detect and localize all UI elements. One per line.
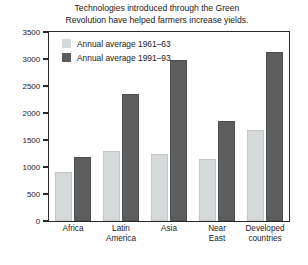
bar	[247, 130, 264, 221]
legend-item-1961-63: Annual average 1961–63	[62, 37, 212, 50]
bar	[218, 121, 235, 221]
legend-swatch-dark-icon	[62, 53, 71, 62]
bar	[170, 60, 187, 221]
x-axis-label-line: Developed	[235, 224, 295, 234]
chart-title: Technologies introduced through the Gree…	[26, 3, 288, 26]
chart-title-line-1: Technologies introduced through the Gree…	[26, 3, 288, 15]
y-axis-tick-label: 2500	[23, 82, 40, 91]
y-axis-tick-label: 2000	[23, 109, 40, 118]
y-axis-tick: 500	[27, 189, 48, 199]
y-axis: 3500300025002000150010005000	[0, 31, 48, 222]
legend-label-1961-63: Annual average 1961–63	[77, 39, 171, 49]
y-axis-tick-label: 1500	[23, 136, 40, 145]
y-axis-tick: 1000	[23, 162, 48, 172]
bar	[151, 154, 168, 221]
bar	[266, 52, 283, 221]
y-axis-tick: 3000	[23, 54, 48, 64]
y-axis-tick-label: 0	[36, 217, 40, 226]
y-axis-tick: 2000	[23, 108, 48, 118]
y-axis-tick: 3500	[23, 27, 48, 37]
bar	[55, 172, 72, 221]
y-axis-tick-label: 3000	[23, 55, 40, 64]
x-axis: AfricaLatinAmericaAsiaNearEastDevelopedc…	[49, 224, 289, 262]
legend-item-1991-93: Annual average 1991–93	[62, 51, 212, 64]
legend-label-1991-93: Annual average 1991–93	[77, 53, 171, 63]
bar	[199, 159, 216, 221]
y-axis-tick-label: 1000	[23, 163, 40, 172]
x-axis-label-line: America	[91, 234, 151, 244]
x-axis-category-label: Developedcountries	[235, 224, 295, 244]
x-axis-label-line: countries	[235, 234, 295, 244]
legend-swatch-light-icon	[62, 39, 71, 48]
bar	[74, 157, 91, 221]
bar	[103, 151, 120, 221]
bar-group	[241, 32, 289, 221]
y-axis-tick-label: 500	[27, 190, 40, 199]
y-axis-tick-label: 3500	[23, 28, 40, 37]
bar-chart-figure: Technologies introduced through the Gree…	[0, 0, 308, 265]
chart-title-line-2: Revolution have helped farmers increase …	[26, 15, 288, 27]
y-axis-tick: 1500	[23, 135, 48, 145]
bar	[122, 94, 139, 221]
chart-legend: Annual average 1961–63 Annual average 19…	[62, 37, 212, 65]
y-axis-tick: 2500	[23, 81, 48, 91]
